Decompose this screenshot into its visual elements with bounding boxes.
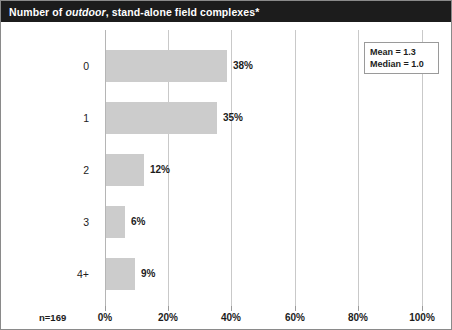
- category-label-2: 2: [29, 154, 89, 186]
- gridline-60: [295, 30, 296, 306]
- bar-value-0: 38%: [233, 50, 253, 82]
- bar-3: [106, 206, 125, 238]
- category-label-4: 4+: [29, 258, 89, 290]
- chart-figure: Number of outdoor, stand-alone field com…: [0, 0, 452, 330]
- bar-2: [106, 154, 144, 186]
- title-suffix: , stand-alone field complexes*: [106, 6, 260, 18]
- xtick-label-80: 80%: [333, 312, 383, 323]
- tick-60: [295, 306, 296, 311]
- bar-1: [106, 102, 217, 134]
- tick-100: [422, 306, 423, 311]
- plot-area: 0 1 2 3 4+ 38% 35% 12% 6% 9% 0% 20% 40% …: [1, 22, 452, 330]
- category-label-0: 0: [29, 50, 89, 82]
- xtick-label-20: 20%: [143, 312, 193, 323]
- tick-0: [105, 306, 106, 311]
- xtick-label-40: 40%: [206, 312, 256, 323]
- tick-20: [168, 306, 169, 311]
- tick-40: [231, 306, 232, 311]
- bar-4: [106, 258, 135, 290]
- sample-size-label: n=169: [39, 312, 66, 323]
- tick-80: [358, 306, 359, 311]
- title-italic-word: outdoor: [65, 6, 105, 18]
- stats-legend-box: Mean = 1.3 Median = 1.0: [364, 42, 439, 74]
- gridline-40: [231, 30, 232, 306]
- page-title: Number of outdoor, stand-alone field com…: [1, 6, 259, 18]
- xtick-label-60: 60%: [270, 312, 320, 323]
- bar-value-2: 12%: [150, 154, 170, 186]
- bar-value-1: 35%: [223, 102, 243, 134]
- bar-0: [106, 50, 227, 82]
- bar-value-3: 6%: [131, 206, 145, 238]
- stats-mean: Mean = 1.3: [370, 46, 438, 58]
- title-prefix: Number of: [9, 6, 65, 18]
- xtick-label-100: 100%: [397, 312, 447, 323]
- gridline-80: [358, 30, 359, 306]
- bar-value-4: 9%: [141, 258, 155, 290]
- category-label-3: 3: [29, 206, 89, 238]
- category-label-1: 1: [29, 102, 89, 134]
- xtick-label-0: 0%: [80, 312, 130, 323]
- stats-median: Median = 1.0: [370, 58, 438, 70]
- chart-title-bar: Number of outdoor, stand-alone field com…: [1, 1, 452, 22]
